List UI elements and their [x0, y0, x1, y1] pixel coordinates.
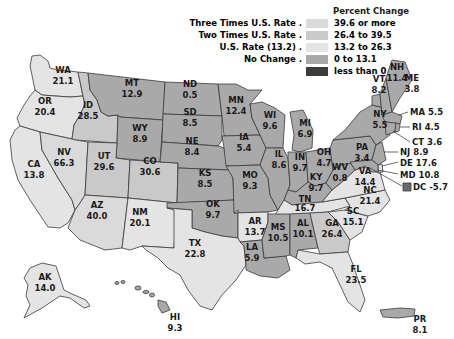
label-ny-abbr: NY [373, 109, 387, 119]
label-me-value: 3.8 [404, 84, 419, 94]
label-vt-abbr: VT [373, 74, 386, 84]
label-sd-value: 8.5 [182, 118, 197, 128]
label-ok-value: 9.7 [205, 210, 220, 220]
label-az-value: 40.0 [87, 211, 108, 221]
label-tn-value: 16.7 [295, 203, 316, 213]
label-az-abbr: AZ [91, 200, 104, 210]
label-id-abbr: ID [83, 100, 93, 110]
label-ms-value: 10.5 [268, 233, 289, 243]
label-il-value: 8.6 [271, 160, 286, 170]
state-hi[interactable] [115, 281, 170, 314]
label-id-value: 28.5 [78, 111, 99, 121]
label-ga-abbr: GA [325, 218, 339, 228]
label-fl-value: 23.5 [346, 275, 367, 285]
label-ia-abbr: IA [239, 132, 249, 142]
label-va-abbr: VA [359, 166, 372, 176]
label-ok-abbr: OK [206, 199, 220, 209]
label-de: DE 17.6 [400, 158, 437, 168]
state-dc-swatch[interactable] [403, 183, 411, 191]
label-mo-value: 9.3 [242, 181, 257, 191]
label-fl-abbr: FL [350, 264, 362, 274]
state-ri[interactable] [395, 123, 400, 132]
label-co-abbr: CO [143, 156, 156, 166]
label-nm-abbr: NM [132, 207, 148, 217]
label-ar-value: 13.7 [245, 227, 266, 237]
label-md: MD 10.8 [400, 170, 440, 180]
label-ri: RI 4.5 [412, 122, 440, 132]
label-vt-value: 8.2 [371, 85, 386, 95]
label-ma: MA 5.5 [410, 107, 443, 117]
label-nm-value: 20.1 [130, 218, 151, 228]
label-dc: DC -5.7 [413, 182, 448, 192]
label-ca-value: 13.8 [24, 170, 45, 180]
label-hi-abbr: HI [170, 312, 180, 322]
label-me-abbr: ME [405, 73, 419, 83]
label-nh-abbr: NH [390, 62, 404, 72]
label-wi-value: 9.6 [262, 121, 277, 131]
label-ms-abbr: MS [271, 222, 286, 232]
label-ia-value: 5.4 [236, 143, 251, 153]
label-ak-abbr: AK [38, 272, 52, 282]
label-or-abbr: OR [38, 96, 52, 106]
label-nd-value: 0.5 [182, 90, 197, 100]
label-la-value: 5.9 [244, 253, 259, 263]
label-wa-value: 21.1 [53, 76, 74, 86]
label-ut-value: 29.6 [94, 162, 115, 172]
label-pr-value: 8.1 [412, 325, 427, 335]
label-mt-value: 12.9 [122, 89, 143, 99]
label-ks-value: 8.5 [197, 179, 212, 189]
state-pr[interactable] [380, 308, 415, 318]
label-al-value: 10.1 [293, 229, 314, 239]
label-nv-abbr: NV [57, 147, 71, 157]
label-ar-abbr: AR [248, 216, 262, 226]
label-mo-abbr: MO [242, 170, 258, 180]
label-ct: CT 3.6 [412, 137, 442, 147]
label-ny-value: 5.5 [372, 120, 387, 130]
label-or-value: 20.4 [35, 107, 56, 117]
label-wv-abbr: WV [332, 162, 348, 172]
label-tx-abbr: TX [189, 238, 202, 248]
label-nv-value: 66.3 [54, 158, 75, 168]
label-sd-abbr: SD [183, 107, 196, 117]
label-il-abbr: IL [275, 149, 284, 159]
label-ne-abbr: NE [186, 136, 199, 146]
label-co-value: 30.6 [140, 167, 161, 177]
label-in-value: 9.7 [292, 163, 307, 173]
label-sc-abbr: SC [347, 206, 359, 216]
label-pr-abbr: PR [414, 314, 427, 324]
label-ak-value: 14.0 [35, 283, 56, 293]
label-wa-abbr: WA [55, 65, 71, 75]
label-ks-abbr: KS [199, 168, 212, 178]
label-nd-abbr: ND [183, 79, 197, 89]
label-ne-value: 8.4 [184, 147, 199, 157]
label-in-abbr: IN [295, 152, 305, 162]
label-wy-abbr: WY [132, 123, 148, 133]
label-mi-abbr: MI [299, 118, 311, 128]
label-wv-value: 0.8 [332, 173, 347, 183]
label-nj: NJ 8.9 [400, 147, 428, 157]
us-map: WA 21.1 OR 20.4 CA 13.8 ID 28.5 NV 66.3 … [0, 0, 454, 339]
label-wi-abbr: WI [264, 110, 277, 120]
label-ky-abbr: KY [310, 172, 324, 182]
label-nc-value: 21.4 [360, 196, 381, 206]
label-nc-abbr: NC [363, 185, 376, 195]
label-sc-value: 15.1 [343, 217, 364, 227]
label-ky-value: 9.7 [308, 183, 323, 193]
label-ca-abbr: CA [28, 159, 41, 169]
label-pa-abbr: PA [356, 142, 368, 152]
label-oh-value: 4.7 [316, 158, 331, 168]
label-hi-value: 9.3 [167, 323, 182, 333]
label-mt-abbr: MT [125, 78, 139, 88]
label-la-abbr: LA [246, 242, 258, 252]
label-wy-value: 8.9 [132, 134, 147, 144]
label-oh-abbr: OH [317, 147, 331, 157]
label-ut-abbr: UT [98, 151, 111, 161]
label-ga-value: 26.4 [322, 229, 343, 239]
label-pa-value: 3.4 [354, 153, 369, 163]
label-mn-abbr: MN [228, 95, 244, 105]
label-mn-value: 12.4 [226, 106, 247, 116]
label-tx-value: 22.8 [185, 249, 206, 259]
label-al-abbr: AL [297, 218, 310, 228]
label-mi-value: 6.9 [297, 129, 312, 139]
